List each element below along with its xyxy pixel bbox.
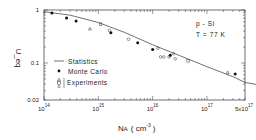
annotations: p - Si T = 77 K bbox=[196, 20, 225, 38]
monte-carlo-point bbox=[75, 19, 78, 22]
svg-text:NA( cm-3): NA( cm-3) bbox=[118, 122, 156, 133]
experiment-point-circle bbox=[157, 47, 160, 50]
experiment-point-circle bbox=[127, 38, 130, 41]
legend-monte-carlo-label: Monte Carlo bbox=[68, 68, 108, 75]
x-tick-label: 1016 bbox=[147, 103, 159, 112]
legend-monte-carlo-swatch bbox=[58, 70, 61, 73]
monte-carlo-point bbox=[151, 48, 154, 51]
ticks bbox=[44, 10, 245, 100]
x-tick-label: 1015 bbox=[92, 103, 104, 112]
experiment-point-circle bbox=[174, 57, 177, 60]
experiment-point-triangle bbox=[226, 71, 229, 74]
experiment-point-square bbox=[187, 59, 190, 62]
legend-experiments-swatch bbox=[58, 78, 64, 88]
monte-carlo-point bbox=[65, 16, 68, 19]
x-axis-title-exp: -3 bbox=[146, 122, 151, 128]
y-axis-title: U_eq bbox=[14, 48, 23, 67]
legend-experiments-label: Experiments bbox=[67, 79, 108, 87]
annotation-material: p - Si bbox=[196, 20, 215, 28]
experiment-point-triangle bbox=[88, 27, 91, 30]
chart: 10141015101610175x1017 10.10.02 U_eq NA(… bbox=[0, 0, 256, 140]
y-tick-label: 0.1 bbox=[31, 60, 40, 66]
experiment-point-circle bbox=[159, 56, 162, 59]
y-tick-label: 1 bbox=[36, 7, 40, 13]
y-tick-label: 0.02 bbox=[27, 97, 39, 103]
monte-carlo-point bbox=[234, 72, 237, 75]
experiment-point-circle bbox=[108, 29, 111, 32]
x-tick-label: 5x1017 bbox=[235, 103, 254, 112]
monte-carlo-point bbox=[136, 41, 139, 44]
legend: Statistics Monte Carlo Experiments bbox=[54, 58, 108, 89]
x-axis-title: NA( cm-3) bbox=[118, 122, 156, 133]
legend-statistics-label: Statistics bbox=[68, 58, 98, 65]
annotation-temperature: T = 77 K bbox=[196, 31, 225, 38]
x-tick-label: 1014 bbox=[38, 103, 50, 112]
axes bbox=[44, 10, 245, 100]
x-tick-labels: 10141015101610175x1017 bbox=[38, 103, 254, 112]
x-axis-title-sub: A bbox=[124, 126, 128, 132]
x-axis-title-close: ) bbox=[153, 124, 156, 133]
x-axis-title-unit: ( cm bbox=[131, 124, 147, 133]
y-tick-labels: 10.10.02 bbox=[27, 7, 39, 103]
plot-frame bbox=[44, 10, 245, 100]
x-tick-label: 1017 bbox=[201, 103, 213, 112]
monte-carlo-point bbox=[50, 11, 53, 14]
experiment-point-circle bbox=[162, 56, 165, 59]
